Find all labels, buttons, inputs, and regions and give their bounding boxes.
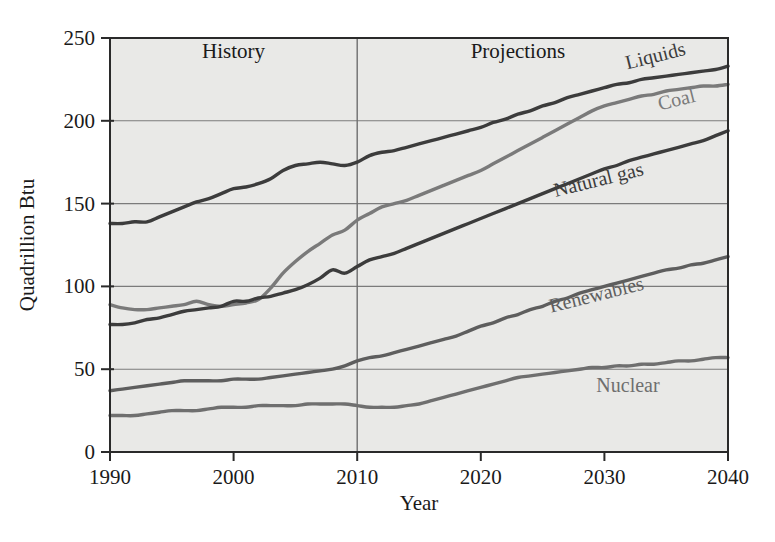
x-axis-title: Year [400,491,439,515]
x-tick-label-2020: 2020 [460,465,502,489]
annotation-history: History [202,39,266,63]
annotation-projections: Projections [471,39,566,63]
series-label-nuclear: Nuclear [596,374,660,396]
y-tick-label-100: 100 [64,274,96,298]
energy-consumption-line-chart: 199020002010202020302040 050100150200250… [0,0,775,542]
y-tick-label-0: 0 [85,440,96,464]
y-tick-label-250: 250 [64,26,96,50]
y-tick-label-150: 150 [64,192,96,216]
y-tick-label-50: 50 [74,357,95,381]
x-tick-label-2010: 2010 [336,465,378,489]
x-tick-label-2000: 2000 [213,465,255,489]
y-tick-label-200: 200 [64,109,96,133]
x-tick-label-2040: 2040 [707,465,749,489]
x-tick-label-1990: 1990 [89,465,131,489]
y-axis-title: Quadrillion Btu [15,178,39,311]
figure-container: 199020002010202020302040 050100150200250… [0,0,775,542]
x-tick-label-2030: 2030 [583,465,625,489]
